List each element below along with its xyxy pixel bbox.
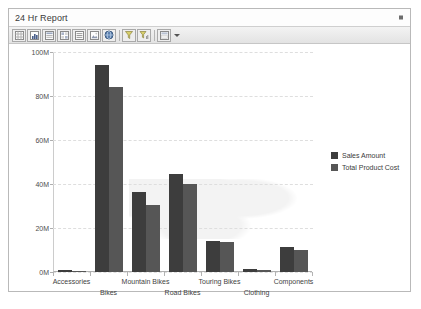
- report-panel: 24 Hr Report: [8, 8, 411, 292]
- x-axis-tick: [201, 272, 202, 276]
- screenshot-root: 24 Hr Report: [0, 0, 421, 309]
- matrix-icon[interactable]: [57, 29, 71, 42]
- legend-label: Sales Amount: [342, 152, 385, 159]
- table-report-icon[interactable]: [42, 29, 56, 42]
- x-axis-tick: [90, 272, 91, 276]
- bar-group: [280, 52, 308, 272]
- bar[interactable]: [243, 269, 257, 272]
- x-axis-tick: [164, 272, 165, 276]
- y-axis-label: 0M: [39, 269, 49, 276]
- bar[interactable]: [257, 270, 271, 272]
- layout-icon[interactable]: [157, 29, 171, 42]
- report-toolbar: [9, 27, 410, 44]
- list-icon[interactable]: [72, 29, 86, 42]
- x-axis-tick: [312, 272, 313, 276]
- bar-series-layer: [53, 52, 312, 272]
- filter-sort-icon[interactable]: [137, 29, 151, 42]
- legend-swatch-icon: [331, 152, 338, 159]
- legend-item: Sales Amount: [331, 152, 415, 159]
- y-axis-label: 80M: [35, 93, 49, 100]
- chart-canvas: 0M20M40M60M80M100M AccessoriesBikesMount…: [9, 44, 410, 291]
- bar[interactable]: [280, 247, 294, 272]
- bar[interactable]: [183, 184, 197, 272]
- bar[interactable]: [72, 271, 86, 272]
- x-axis-tick: [275, 272, 276, 276]
- legend-swatch-icon: [331, 164, 338, 171]
- toolbar-separator: [154, 30, 155, 41]
- x-axis-tick: [127, 272, 128, 276]
- image-icon[interactable]: [87, 29, 101, 42]
- x-axis-tick: [53, 272, 54, 276]
- bar[interactable]: [206, 241, 220, 272]
- x-axis-label: Mountain Bikes: [122, 278, 170, 285]
- x-axis-label: Bikes: [100, 289, 117, 296]
- bar-group: [169, 52, 197, 272]
- bar[interactable]: [95, 65, 109, 272]
- y-axis-label: 60M: [35, 137, 49, 144]
- legend-label: Total Product Cost: [342, 164, 399, 171]
- chevron-down-icon[interactable]: [174, 34, 180, 37]
- bar-group: [132, 52, 160, 272]
- bar[interactable]: [58, 270, 72, 272]
- gridline: [53, 272, 313, 273]
- x-axis-label: Clothing: [244, 289, 270, 296]
- collapse-square-icon[interactable]: [397, 14, 404, 21]
- bar[interactable]: [146, 205, 160, 272]
- x-axis-label: Road Bikes: [165, 289, 201, 296]
- y-axis-label: 20M: [35, 225, 49, 232]
- bar[interactable]: [109, 87, 123, 272]
- bar[interactable]: [169, 174, 183, 272]
- legend-item: Total Product Cost: [331, 164, 415, 171]
- toolbar-separator: [119, 30, 120, 41]
- plot-area: 0M20M40M60M80M100M AccessoriesBikesMount…: [53, 52, 312, 272]
- filter-icon[interactable]: [122, 29, 136, 42]
- y-axis-label: 100M: [31, 49, 49, 56]
- x-axis-tick: [238, 272, 239, 276]
- globe-icon[interactable]: [102, 29, 116, 42]
- x-axis-label: Touring Bikes: [198, 278, 240, 285]
- bar-group: [58, 52, 86, 272]
- y-axis-label: 40M: [35, 181, 49, 188]
- x-axis-label: Components: [274, 278, 314, 285]
- x-axis-label: Accessories: [53, 278, 91, 285]
- grid-view-icon[interactable]: [12, 29, 26, 42]
- bar[interactable]: [220, 242, 234, 272]
- bar-group: [95, 52, 123, 272]
- bar[interactable]: [132, 192, 146, 272]
- bar[interactable]: [294, 250, 308, 272]
- bar-group: [206, 52, 234, 272]
- report-title-bar: 24 Hr Report: [9, 9, 410, 27]
- bar-chart-icon[interactable]: [27, 29, 41, 42]
- page-title: 24 Hr Report: [9, 13, 68, 23]
- chart-legend: Sales Amount Total Product Cost: [331, 152, 415, 176]
- bar-group: [243, 52, 271, 272]
